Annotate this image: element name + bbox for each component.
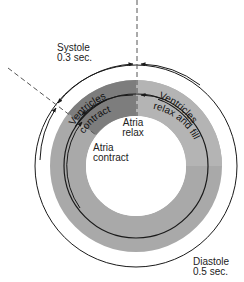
atria-relax-label-2: relax <box>113 128 153 138</box>
diastole-duration: 0.5 sec. <box>193 267 228 277</box>
atria-contract-label-2: contract <box>93 153 129 163</box>
cardiac-cycle-diagram: Ventricles contract Ventricles relax and… <box>0 0 244 282</box>
systole-duration: 0.3 sec. <box>57 53 92 63</box>
